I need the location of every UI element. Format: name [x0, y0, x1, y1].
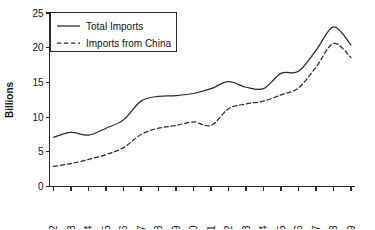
- chart-legend: Total ImportsImports from China: [51, 13, 177, 52]
- x-axis-ticks: 1992199319941995199619971998199920002001…: [48, 187, 357, 230]
- line-chart: 0510152025 Billions 19921993199419951996…: [0, 0, 375, 229]
- x-tick-label: 1995: [101, 225, 112, 229]
- y-tick-label: 0: [38, 181, 44, 192]
- y-tick-label: 5: [38, 146, 44, 157]
- y-tick-label: 10: [32, 112, 44, 123]
- x-tick-label: 1996: [118, 225, 129, 229]
- chart-canvas: 0510152025 Billions 19921993199419951996…: [0, 0, 375, 229]
- x-tick-label: 1993: [66, 225, 77, 229]
- x-tick-label: 2001: [206, 225, 217, 229]
- x-tick-label: 2008: [328, 225, 339, 229]
- y-axis: 0510152025 Billions: [4, 8, 50, 193]
- x-tick-label: 2004: [258, 225, 269, 229]
- y-axis-ticks: 0510152025: [32, 8, 49, 193]
- series-line-imports-from-china: [54, 43, 352, 166]
- x-tick-label: 1997: [136, 225, 147, 229]
- y-tick-label: 20: [32, 42, 44, 53]
- x-tick-label: 1992: [48, 225, 59, 229]
- y-axis-title: Billions: [4, 82, 15, 119]
- x-axis: 1992199319941995199619971998199920002001…: [48, 187, 357, 230]
- x-tick-label: 2003: [241, 225, 252, 229]
- x-tick-label: 2000: [188, 225, 199, 229]
- x-tick-label: 2006: [293, 225, 304, 229]
- y-tick-label: 25: [32, 8, 44, 19]
- y-tick-label: 15: [32, 77, 44, 88]
- x-tick-label: 1998: [153, 225, 164, 229]
- x-tick-label: 2005: [276, 225, 287, 229]
- x-tick-label: 2002: [223, 225, 234, 229]
- x-tick-label: 1999: [171, 225, 182, 229]
- legend-label: Imports from China: [86, 38, 171, 49]
- x-tick-label: 2009: [346, 225, 357, 229]
- x-tick-label: 2007: [311, 225, 322, 229]
- x-tick-label: 1994: [83, 225, 94, 229]
- legend-label: Total Imports: [86, 21, 143, 32]
